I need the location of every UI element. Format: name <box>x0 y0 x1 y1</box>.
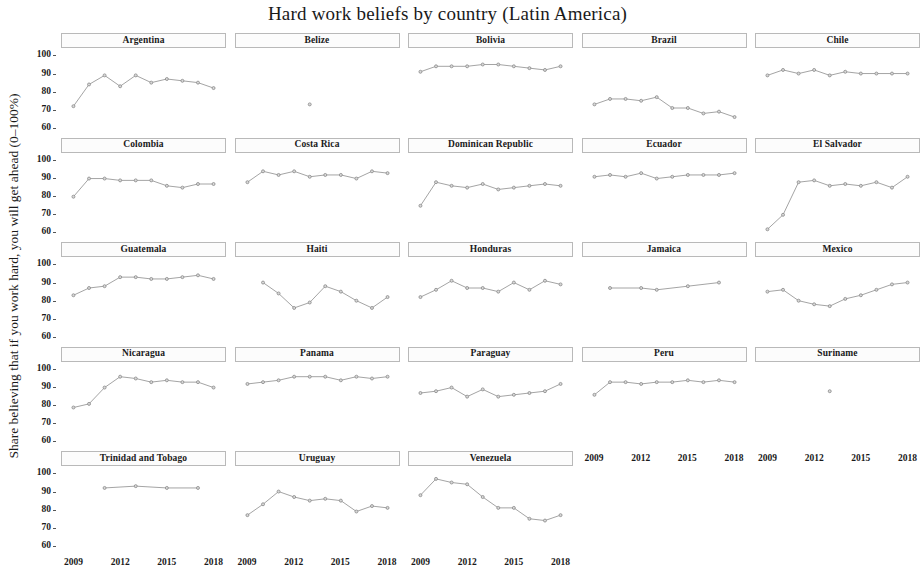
data-point <box>212 386 215 389</box>
facet-chile: Chile <box>755 33 920 137</box>
facet-strip-label: Panama <box>235 347 400 362</box>
data-point <box>906 175 909 178</box>
data-point <box>859 72 862 75</box>
data-point <box>543 389 546 392</box>
data-point <box>419 296 422 299</box>
facet-strip-label: Bolivia <box>408 33 573 48</box>
data-point <box>624 97 627 100</box>
x-tick-label: 2009 <box>758 454 777 464</box>
data-point <box>528 288 531 291</box>
data-point <box>181 186 184 189</box>
data-point <box>370 377 373 380</box>
data-point <box>323 173 326 176</box>
data-point <box>497 187 500 190</box>
data-point <box>292 375 295 378</box>
x-tick-label: 2018 <box>551 558 570 568</box>
x-tick-label: 2009 <box>584 454 603 464</box>
x-tick-label: 2018 <box>378 558 397 568</box>
facet-plot-area <box>755 155 920 242</box>
x-tick-label: 2009 <box>411 558 430 568</box>
data-point <box>481 287 484 290</box>
facet-title-text: Mexico <box>822 245 852 255</box>
data-point <box>559 514 562 517</box>
data-point <box>717 173 720 176</box>
facet-strip-label: Chile <box>755 33 920 48</box>
series-line <box>420 383 560 396</box>
facet-plot-area <box>582 50 747 137</box>
data-point <box>844 297 847 300</box>
y-axis-label: Share believing that if you work hard, y… <box>6 16 22 536</box>
series-line <box>594 173 734 178</box>
data-point <box>766 227 769 230</box>
data-point <box>481 496 484 499</box>
data-point <box>717 110 720 113</box>
facet-plot-area <box>408 364 573 451</box>
y-tick-label: 100 <box>37 364 51 374</box>
series-line <box>420 479 560 521</box>
data-point <box>797 299 800 302</box>
facet-strip-label: Uruguay <box>235 451 400 466</box>
data-point <box>481 182 484 185</box>
data-point <box>419 391 422 394</box>
data-point <box>701 380 704 383</box>
data-point <box>766 290 769 293</box>
data-point <box>308 375 311 378</box>
x-tick-label: 2015 <box>157 558 176 568</box>
data-point <box>261 503 264 506</box>
data-point <box>165 277 168 280</box>
series-line <box>420 182 560 206</box>
data-point <box>890 283 893 286</box>
facet-title-text: Trinidad and Tobago <box>100 454 187 464</box>
facet-plot-area <box>61 50 226 137</box>
y-axis: 60708090100 <box>33 50 57 137</box>
facet-strip-label: Trinidad and Tobago <box>61 451 226 466</box>
data-point <box>828 305 831 308</box>
data-point <box>701 173 704 176</box>
data-point <box>497 506 500 509</box>
data-point <box>844 182 847 185</box>
x-tick-label: 2012 <box>458 558 477 568</box>
series-line <box>247 376 387 383</box>
data-point <box>292 306 295 309</box>
data-point <box>181 380 184 383</box>
x-tick-label: 2018 <box>204 558 223 568</box>
data-point <box>370 306 373 309</box>
y-tick-label: 70 <box>42 210 52 220</box>
data-point <box>419 204 422 207</box>
facet-strip-label: Brazil <box>582 33 747 48</box>
data-point <box>308 103 311 106</box>
data-point <box>196 182 199 185</box>
data-point <box>512 186 515 189</box>
data-point <box>528 517 531 520</box>
data-point <box>150 81 153 84</box>
facet-strip-label: Venezuela <box>408 451 573 466</box>
series-line <box>105 486 198 488</box>
y-tick-label: 60 <box>42 541 52 551</box>
y-tick-mark <box>53 301 56 302</box>
facet-costa-rica: Costa Rica <box>235 138 400 242</box>
data-point <box>450 481 453 484</box>
facet-strip-label: Colombia <box>61 138 226 153</box>
data-point <box>72 294 75 297</box>
data-point <box>497 395 500 398</box>
data-point <box>419 70 422 73</box>
facet-title-text: Nicaragua <box>122 349 165 359</box>
facet-haiti: Haiti <box>235 242 400 346</box>
x-axis: 2009201220152018 <box>582 454 747 468</box>
facet-plot-area <box>61 155 226 242</box>
data-point <box>72 105 75 108</box>
y-tick-label: 60 <box>42 123 52 133</box>
facet-belize: Belize <box>235 33 400 137</box>
data-point <box>435 65 438 68</box>
data-point <box>686 107 689 110</box>
facet-bolivia: Bolivia <box>408 33 573 137</box>
facet-strip-label: Argentina <box>61 33 226 48</box>
y-tick-mark <box>53 369 56 370</box>
y-tick-mark <box>53 196 56 197</box>
data-point <box>466 395 469 398</box>
facet-plot-area <box>755 259 920 346</box>
data-point <box>196 486 199 489</box>
facet-plot-area <box>582 364 747 451</box>
y-tick-mark <box>53 110 56 111</box>
y-tick-mark <box>53 128 56 129</box>
